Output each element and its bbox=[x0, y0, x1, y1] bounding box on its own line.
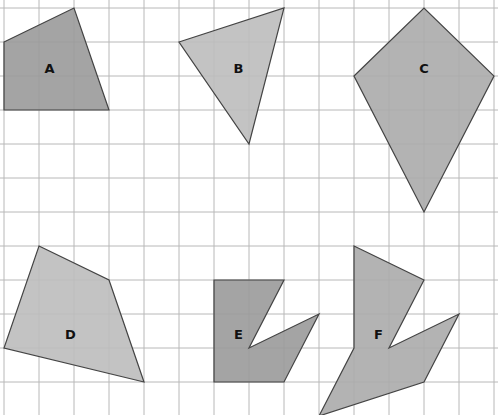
shape-label: E bbox=[234, 327, 243, 342]
shape-label: C bbox=[419, 61, 429, 76]
shape-label: A bbox=[44, 61, 54, 76]
shape-c: C bbox=[354, 8, 494, 212]
shape-a: A bbox=[4, 8, 109, 110]
shape-label: F bbox=[374, 327, 383, 342]
shape-polygon bbox=[354, 8, 494, 212]
shape-label: D bbox=[65, 327, 76, 342]
grid-diagram: ABCDEF bbox=[0, 0, 498, 415]
shape-polygon bbox=[4, 8, 109, 110]
shape-polygon bbox=[214, 280, 319, 382]
shape-e: E bbox=[214, 280, 319, 382]
shape-f: F bbox=[319, 246, 459, 415]
shape-label: B bbox=[234, 61, 244, 76]
shape-polygon bbox=[319, 246, 459, 415]
